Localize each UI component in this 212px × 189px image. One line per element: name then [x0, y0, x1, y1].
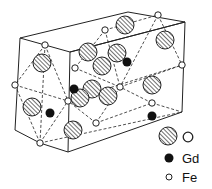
- oxygen-atom: [64, 121, 82, 139]
- oxygen-atom: [143, 76, 161, 94]
- legend-label-gd: Gd: [182, 151, 199, 166]
- dashed-bond-line: [152, 103, 182, 112]
- iron-atom: [117, 84, 123, 90]
- iron-atom: [102, 27, 108, 33]
- oxygen-atom: [79, 43, 97, 61]
- gadolinium-atom: [123, 58, 132, 67]
- oxygen-atom: [23, 98, 41, 116]
- box-edge-line: [40, 143, 68, 152]
- dashed-bond-line: [45, 45, 68, 101]
- oxygen-atom: [99, 87, 117, 105]
- legend: Gd Fe: [159, 127, 199, 185]
- iron-atom: [65, 98, 71, 104]
- legend-label-o-glyph: [183, 132, 193, 142]
- iron-atom: [37, 140, 43, 146]
- iron-atom: [12, 82, 18, 88]
- iron-atom: [149, 100, 155, 106]
- iron-atom: [72, 65, 78, 71]
- oxygen-atom: [93, 57, 111, 75]
- dashed-bond-line: [40, 101, 68, 143]
- legend-item-gd: Gd: [165, 151, 200, 166]
- oxygen-atom: [156, 31, 174, 49]
- hatched-circle-icon: [159, 127, 177, 145]
- box-edge-line: [15, 130, 40, 143]
- box-edge-line: [20, 12, 128, 38]
- oxygen-atom: [108, 44, 126, 62]
- legend-label-fe: Fe: [182, 170, 197, 185]
- small-white-circle-icon: [166, 174, 172, 180]
- legend-item-fe: Fe: [166, 170, 197, 185]
- gadolinium-atom: [70, 85, 79, 94]
- black-circle-icon: [165, 154, 174, 163]
- crystal-structure-diagram: Gd Fe: [0, 0, 212, 189]
- iron-atom: [155, 12, 161, 18]
- oxygen-atom: [116, 16, 134, 34]
- gadolinium-atom: [46, 109, 55, 118]
- gadolinium-atom: [148, 112, 157, 121]
- iron-atom: [179, 62, 185, 68]
- dashed-bond-line: [15, 85, 68, 101]
- legend-item-o: [159, 127, 193, 145]
- iron-atom: [42, 42, 48, 48]
- oxygen-atom: [33, 54, 51, 72]
- iron-atom: [93, 120, 99, 126]
